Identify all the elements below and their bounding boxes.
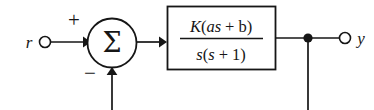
denominator-close-paren: )	[240, 45, 246, 64]
block-diagram-svg: r + Σ − K(as+b) s(s+1)	[0, 0, 374, 110]
numerator-zero-term: as	[206, 17, 221, 36]
arrowhead-feedback-into-sum	[107, 67, 118, 75]
transfer-function-numerator: K(as+b)	[189, 17, 252, 36]
denominator-plus: +	[219, 45, 228, 64]
block-diagram-canvas: r + Σ − K(as+b) s(s+1)	[0, 0, 374, 110]
arrowhead-into-block	[159, 37, 167, 48]
plus-sign-label: +	[68, 8, 80, 32]
transfer-function-denominator: s(s+1)	[196, 45, 245, 64]
denominator-one: 1	[232, 45, 240, 64]
input-signal-label: r	[26, 33, 33, 52]
input-terminal-circle	[40, 37, 51, 48]
output-signal-label: y	[355, 29, 365, 48]
denominator-inner-s: s	[208, 45, 214, 64]
output-terminal-circle	[340, 33, 351, 44]
minus-sign-label: −	[84, 61, 96, 85]
numerator-constant: b	[238, 17, 246, 36]
numerator-close-paren: )	[247, 17, 253, 36]
numerator-plus: +	[225, 17, 234, 36]
sigma-symbol: Σ	[102, 27, 121, 58]
